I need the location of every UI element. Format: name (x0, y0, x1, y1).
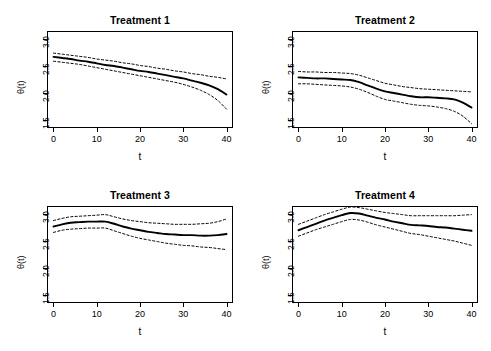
x-tick-label: 20 (365, 309, 405, 319)
x-tick-label: 0 (278, 309, 318, 319)
upper-confidence-band-curve-treatment-4 (298, 207, 471, 224)
panel-treatment-4: Treatment 41.52.02.53.0010203040θ(t)t (0, 0, 491, 351)
x-tick-label: 10 (322, 309, 362, 319)
y-tick-label: 2.0 (286, 265, 296, 277)
y-tick-label: 2.5 (286, 238, 296, 250)
panel-title-treatment-4: Treatment 4 (292, 189, 478, 201)
x-tick-label: 40 (452, 309, 491, 319)
figure-panel-grid: Treatment 11.52.02.53.0010203040θ(t)tTre… (0, 0, 491, 351)
x-tick-mark (385, 303, 386, 307)
y-axis-label-treatment-4: θ(t) (261, 255, 271, 269)
x-tick-mark (298, 303, 299, 307)
x-tick-mark (428, 303, 429, 307)
lower-confidence-band-curve-treatment-4 (298, 219, 471, 245)
x-tick-label: 30 (408, 309, 448, 319)
x-tick-mark (472, 303, 473, 307)
curves-treatment-4 (292, 206, 478, 303)
y-tick-label: 1.5 (286, 292, 296, 304)
y-tick-label: 3.0 (286, 211, 296, 223)
x-tick-mark (342, 303, 343, 307)
x-axis-label-treatment-4: t (292, 326, 478, 337)
